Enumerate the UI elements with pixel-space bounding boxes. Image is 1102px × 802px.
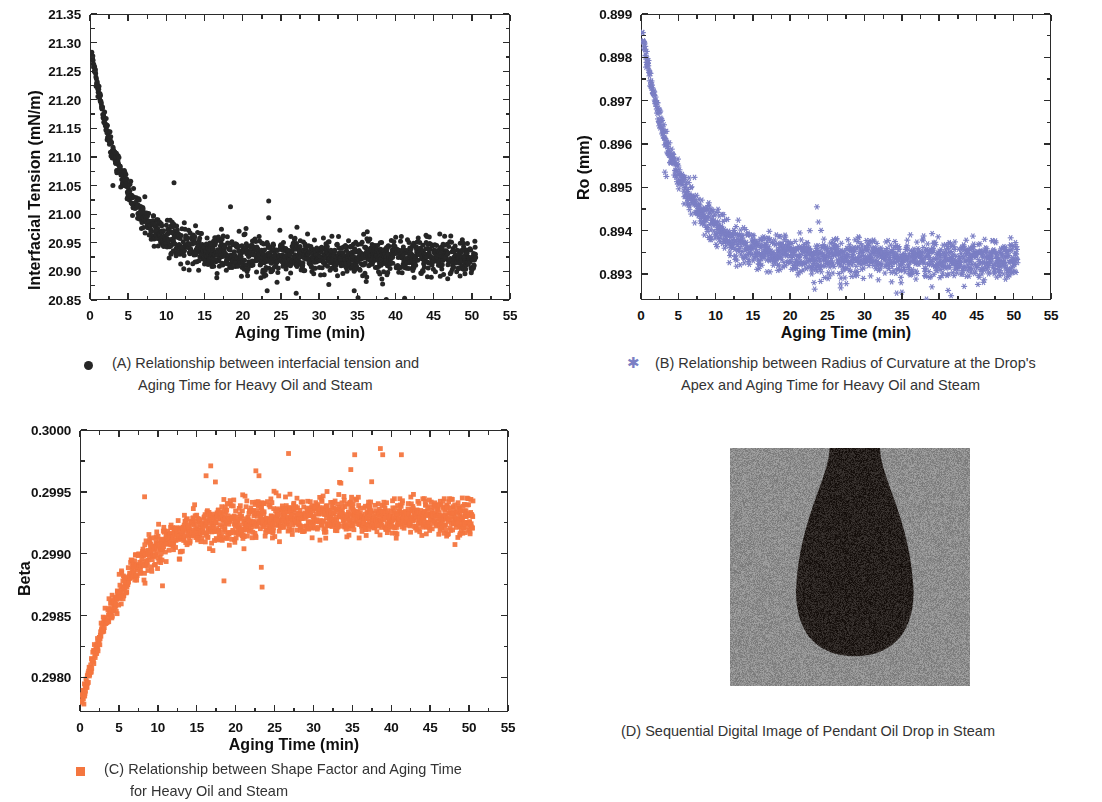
x-tick-minor <box>659 296 660 300</box>
x-tick-label: 0 <box>637 308 644 323</box>
y-tick-right <box>503 271 509 272</box>
panel-a-caption: (A) Relationship between interfacial ten… <box>112 352 419 396</box>
x-tick <box>901 293 902 299</box>
y-tick-minor <box>642 78 646 79</box>
x-tick-top <box>89 15 90 21</box>
x-tick-minor <box>883 296 884 300</box>
x-tick-minor-top <box>108 15 109 19</box>
x-tick <box>864 293 865 299</box>
panel-b-plot: 0.8930.8940.8950.8960.8970.8980.89905101… <box>555 0 1102 320</box>
panel-a-y-axis-title: Interfacial Tension (mN/m) <box>26 90 44 290</box>
x-tick <box>166 293 167 299</box>
x-tick-top <box>395 15 396 21</box>
x-tick-label: 45 <box>423 720 438 735</box>
x-tick-label: 20 <box>783 308 798 323</box>
x-tick-top <box>280 15 281 21</box>
x-tick <box>938 293 939 299</box>
panel-b-caption-line-1: (B) Relationship between Radius of Curva… <box>655 352 1036 374</box>
x-tick-label: 15 <box>189 720 204 735</box>
x-tick-minor-top <box>488 431 489 435</box>
x-tick-label: 40 <box>384 720 399 735</box>
x-tick <box>752 293 753 299</box>
x-tick-minor-top <box>733 15 734 19</box>
x-tick-top <box>1050 15 1051 21</box>
panel-a-scatter-canvas <box>90 14 510 300</box>
x-tick-minor-top <box>177 431 178 435</box>
panel-c-x-axis-title: Aging Time (min) <box>229 736 359 754</box>
x-tick-top <box>235 431 236 437</box>
x-tick-label: 30 <box>306 720 321 735</box>
x-tick-label: 25 <box>820 308 835 323</box>
y-tick-minor <box>91 28 95 29</box>
y-tick <box>642 57 648 58</box>
x-tick-minor <box>733 296 734 300</box>
y-tick <box>642 100 648 101</box>
x-tick-minor-top <box>138 431 139 435</box>
y-tick-minor <box>642 35 646 36</box>
x-tick-top <box>313 431 314 437</box>
x-tick-minor-top <box>147 15 148 19</box>
x-tick-label: 5 <box>675 308 682 323</box>
x-tick-label: 20 <box>228 720 243 735</box>
panel-b-legend-marker: ✱ <box>627 358 640 367</box>
x-tick-label: 20 <box>235 308 250 323</box>
y-tick-minor-right <box>506 285 510 286</box>
y-tick-label: 0.3000 <box>0 423 71 438</box>
x-tick-minor <box>223 296 224 300</box>
x-tick-minor-top <box>376 15 377 19</box>
y-tick <box>91 128 97 129</box>
x-tick-minor-top <box>215 431 216 435</box>
y-tick-minor <box>91 171 95 172</box>
y-tick-right <box>503 299 509 300</box>
y-tick-minor <box>91 256 95 257</box>
x-tick-top <box>196 431 197 437</box>
x-tick <box>640 293 641 299</box>
panel-c-shape-factor: 0.29800.29850.29900.29950.30000510152025… <box>0 400 555 802</box>
x-tick-top <box>678 15 679 21</box>
x-tick-label: 30 <box>857 308 872 323</box>
x-tick-minor-top <box>808 15 809 19</box>
x-tick <box>507 705 508 711</box>
x-tick-minor <box>337 296 338 300</box>
y-tick-minor-right <box>1047 35 1051 36</box>
y-tick-minor-right <box>1047 165 1051 166</box>
x-tick-label: 15 <box>197 308 212 323</box>
y-tick-right <box>503 71 509 72</box>
y-tick-label: 0.2990 <box>0 546 71 561</box>
x-tick-label: 50 <box>1006 308 1021 323</box>
x-tick-minor-top <box>299 15 300 19</box>
y-tick-right <box>503 242 509 243</box>
y-tick <box>91 299 97 300</box>
x-tick <box>509 293 510 299</box>
y-tick-minor-right <box>504 584 508 585</box>
y-tick <box>91 185 97 186</box>
y-tick-right <box>501 553 507 554</box>
y-tick <box>91 242 97 243</box>
y-tick-right <box>501 491 507 492</box>
y-tick-right <box>1044 143 1050 144</box>
x-tick-label: 55 <box>503 308 518 323</box>
y-tick-minor <box>91 142 95 143</box>
x-tick-minor-top <box>371 431 372 435</box>
x-tick-top <box>468 431 469 437</box>
y-tick-right <box>501 429 507 430</box>
y-tick-label: 0.899 <box>555 7 632 22</box>
y-tick-right <box>1044 13 1050 14</box>
x-tick-minor-top <box>254 431 255 435</box>
x-tick-minor-top <box>490 15 491 19</box>
panel-d-pendant-drop: (D) Sequential Digital Image of Pendant … <box>555 400 1102 802</box>
x-tick-minor <box>957 296 958 300</box>
x-tick-minor <box>771 296 772 300</box>
x-tick-top <box>789 15 790 21</box>
y-tick-label: 0.898 <box>555 50 632 65</box>
x-tick-label: 0 <box>86 308 93 323</box>
x-tick-minor-top <box>883 15 884 19</box>
y-tick <box>91 271 97 272</box>
x-tick-minor <box>808 296 809 300</box>
x-tick-minor-top <box>994 15 995 19</box>
x-tick-minor <box>994 296 995 300</box>
x-tick <box>89 293 90 299</box>
x-tick-top <box>715 15 716 21</box>
panel-b-scatter-canvas <box>641 14 1051 300</box>
x-tick-minor <box>147 296 148 300</box>
